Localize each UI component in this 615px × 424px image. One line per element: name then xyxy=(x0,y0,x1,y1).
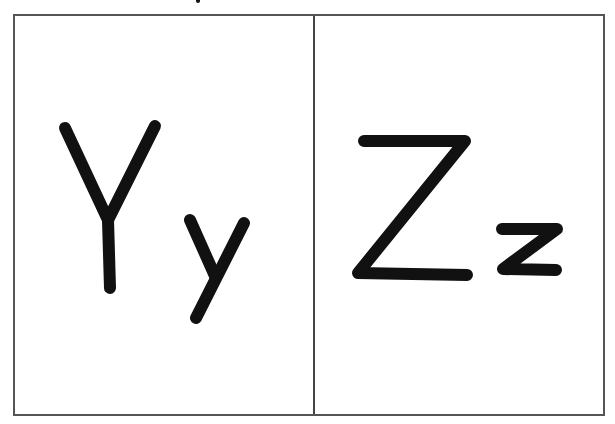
lowercase-z-glyph xyxy=(502,229,557,270)
uppercase-Z-glyph xyxy=(358,141,467,275)
uppercase-Y-glyph xyxy=(65,126,155,288)
card-y xyxy=(65,126,244,318)
card-z xyxy=(358,141,557,275)
lowercase-y-glyph xyxy=(190,220,244,318)
letters-artwork xyxy=(0,0,615,424)
